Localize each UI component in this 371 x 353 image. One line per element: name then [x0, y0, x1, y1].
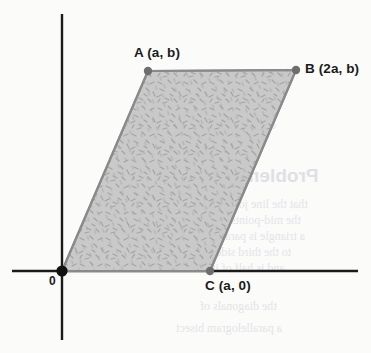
vertex-label-c: C (a, 0) — [205, 279, 251, 293]
vertex-label-b: B (2a, b) — [305, 62, 359, 76]
figure-container: rhombusof vectorsProblemsthat the line j… — [0, 0, 371, 353]
vertex-marker-origin — [56, 265, 67, 276]
vertex-label-a: A (a, b) — [134, 46, 180, 60]
parallelogram-texture-overlay — [62, 70, 296, 271]
vertex-marker-a — [144, 67, 152, 75]
coordinate-figure — [0, 0, 371, 353]
origin-label: 0 — [49, 275, 56, 287]
vertex-marker-c — [206, 267, 214, 275]
vertex-marker-b — [292, 66, 300, 74]
